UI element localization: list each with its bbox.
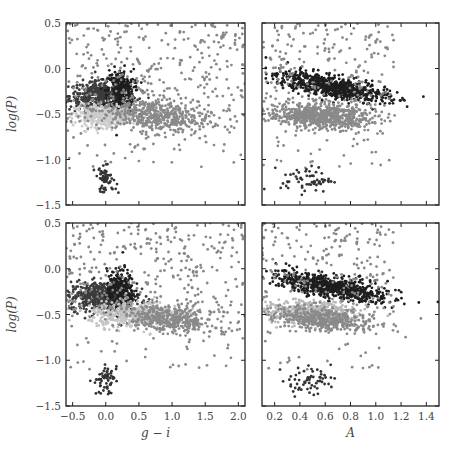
x-tick-label: 1.4	[418, 410, 435, 422]
x-tick-label: 1.2	[393, 410, 410, 422]
series-group-low	[263, 165, 336, 197]
x-tick-label: −0.5	[60, 410, 86, 422]
y-tick-label: −1.0	[36, 354, 62, 366]
y-tick-label: 0.0	[44, 63, 61, 75]
series-group-low	[89, 363, 118, 395]
x-axis-label: g − i	[141, 426, 170, 440]
y-tick-label: 0.5	[44, 17, 61, 29]
x-tick-label: 0.8	[342, 410, 359, 422]
x-tick-label: 0.0	[97, 410, 114, 422]
y-axis-label: log(P)	[5, 96, 19, 133]
y-tick-label: −1.0	[36, 154, 62, 166]
data-points	[43, 22, 246, 195]
x-tick-label: 1.5	[197, 410, 214, 422]
panel-bottom-right: 0.20.40.60.81.01.21.4A	[234, 222, 439, 440]
data-points	[234, 222, 439, 398]
panel-top-left: 0.50.0−0.5−1.0−1.5log(P)	[5, 17, 246, 211]
data-points	[45, 222, 270, 396]
y-axis-label: log(P)	[5, 296, 19, 333]
panel-bottom-left: −0.50.00.51.01.52.00.50.0−0.5−1.0−1.5log…	[5, 217, 270, 440]
x-tick-label: 2.0	[230, 410, 247, 422]
data-points	[241, 22, 425, 196]
x-tick-label: 1.0	[367, 410, 384, 422]
x-tick-label: 0.6	[317, 410, 334, 422]
y-tick-label: −1.5	[36, 199, 62, 211]
scatter-figure: 0.50.0−0.5−1.0−1.5log(P)−0.50.00.51.01.5…	[0, 0, 460, 458]
y-tick-label: 0.5	[44, 217, 61, 229]
y-tick-label: 0.0	[44, 263, 61, 275]
x-axis-label: A	[345, 426, 355, 440]
x-tick-label: 0.5	[131, 410, 148, 422]
x-tick-label: 0.4	[292, 410, 309, 422]
y-tick-label: −1.5	[36, 400, 62, 412]
x-tick-label: 0.2	[266, 410, 283, 422]
panel-top-right	[241, 22, 439, 205]
y-tick-label: −0.5	[36, 108, 62, 120]
y-tick-label: −0.5	[36, 309, 62, 321]
series-group-low	[93, 163, 120, 194]
x-tick-label: 1.0	[164, 410, 181, 422]
